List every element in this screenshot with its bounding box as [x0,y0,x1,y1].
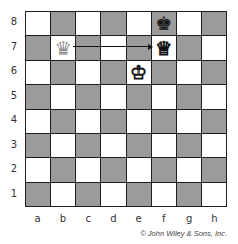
square-a2 [26,158,50,181]
square-e3 [127,134,151,157]
square-e5 [127,85,151,108]
square-a4 [26,110,50,133]
square-c3 [76,134,100,157]
copyright-credit: © John Wiley & Sons, Inc. [140,229,227,238]
square-h4 [202,110,226,133]
square-e4 [127,110,151,133]
square-b5 [51,85,75,108]
square-f4 [152,110,176,133]
square-a8 [26,12,50,35]
square-c2 [76,158,100,181]
white-king-icon: ♔ [130,63,147,82]
square-b8 [51,12,75,35]
square-c1 [76,183,100,206]
square-f5 [152,85,176,108]
rank-label: 2 [8,163,20,174]
square-h1 [202,183,226,206]
rank-label: 3 [8,139,20,150]
square-a7 [26,36,50,59]
square-b7: ♛ [51,36,75,59]
square-b2 [51,158,75,181]
square-d6 [101,61,125,84]
rank-label: 7 [8,41,20,52]
black-king-icon: ♚ [155,14,172,33]
square-e8 [127,12,151,35]
square-g4 [177,110,201,133]
square-b3 [51,134,75,157]
square-g7 [177,36,201,59]
square-h8 [202,12,226,35]
square-d8 [101,12,125,35]
move-arrow [73,46,152,47]
file-label: c [81,213,95,224]
file-label: f [157,213,171,224]
chess-board: ♚♛♕♔ [25,11,227,207]
square-e6: ♔ [127,61,151,84]
square-a5 [26,85,50,108]
file-label: g [182,213,196,224]
square-h6 [202,61,226,84]
rank-label: 6 [8,65,20,76]
square-h7 [202,36,226,59]
square-g2 [177,158,201,181]
square-d2 [101,158,125,181]
square-e7 [127,36,151,59]
square-d5 [101,85,125,108]
file-label: h [207,213,221,224]
white-queen-icon: ♕ [155,39,172,58]
rank-label: 4 [8,114,20,125]
square-h5 [202,85,226,108]
file-label: d [106,213,120,224]
square-c7 [76,36,100,59]
square-f8: ♚ [152,12,176,35]
square-g8 [177,12,201,35]
square-g5 [177,85,201,108]
square-e2 [127,158,151,181]
square-d1 [101,183,125,206]
square-e1 [127,183,151,206]
square-a6 [26,61,50,84]
square-d7 [101,36,125,59]
square-d3 [101,134,125,157]
square-f7: ♕ [152,36,176,59]
square-g1 [177,183,201,206]
square-g6 [177,61,201,84]
file-label: b [56,213,70,224]
square-f1 [152,183,176,206]
square-a3 [26,134,50,157]
square-a1 [26,183,50,206]
square-f3 [152,134,176,157]
file-label: a [31,213,45,224]
square-c6 [76,61,100,84]
square-c8 [76,12,100,35]
rank-label: 8 [8,16,20,27]
file-label: e [132,213,146,224]
square-b4 [51,110,75,133]
square-f2 [152,158,176,181]
square-h2 [202,158,226,181]
rank-label: 1 [8,188,20,199]
square-c4 [76,110,100,133]
square-b6 [51,61,75,84]
rank-label: 5 [8,90,20,101]
square-h3 [202,134,226,157]
square-c5 [76,85,100,108]
square-g3 [177,134,201,157]
ghost-queen-icon: ♛ [55,39,72,58]
square-d4 [101,110,125,133]
square-b1 [51,183,75,206]
square-f6 [152,61,176,84]
